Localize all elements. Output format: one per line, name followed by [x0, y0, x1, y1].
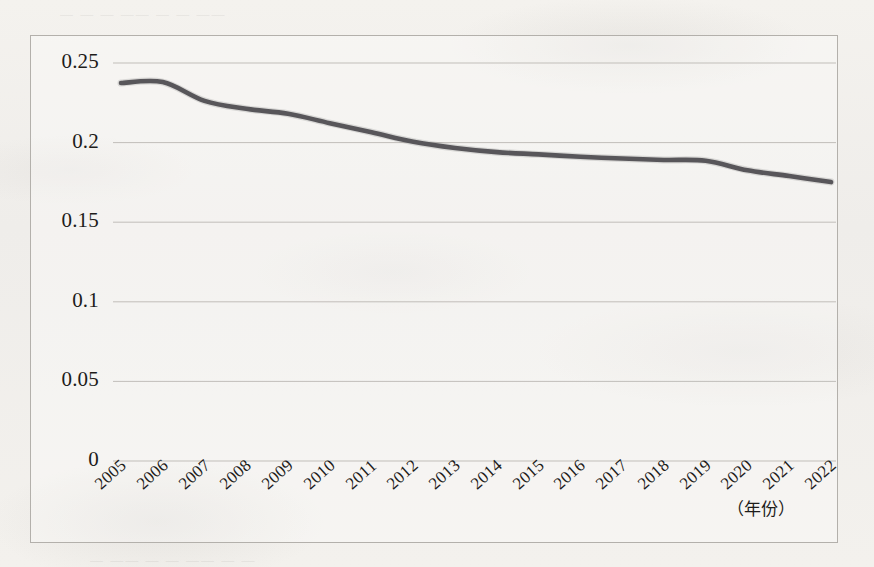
x-axis-title: （年份）	[727, 495, 795, 520]
data-line	[121, 81, 831, 182]
data-series-group	[121, 81, 831, 182]
y-tick-label: 0.25	[31, 49, 99, 74]
page-bleed-top: — — — —— — — ——	[60, 6, 227, 22]
y-tick-label: 0	[31, 447, 99, 472]
y-tick-label: 0.15	[31, 208, 99, 233]
y-tick-label: 0.1	[31, 288, 99, 313]
gridlines-group	[113, 63, 836, 461]
y-tick-label: 0.2	[31, 129, 99, 154]
chart-frame: 00.050.10.150.20.25 20052006200720082009…	[30, 35, 838, 543]
y-tick-label: 0.05	[31, 367, 99, 392]
page-bleed-bottom: — —— — — —— — —	[90, 552, 257, 567]
